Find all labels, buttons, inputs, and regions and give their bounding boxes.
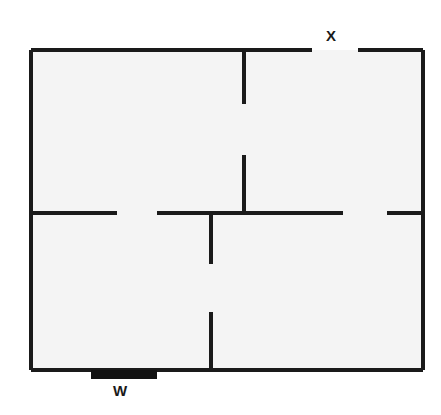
floor-plan-diagram: X W (0, 0, 441, 415)
interior-floor-fill (31, 50, 423, 370)
window-w (91, 370, 157, 379)
label-w: W (113, 383, 127, 398)
label-x: X (326, 28, 336, 43)
floor-plan-canvas (0, 0, 441, 415)
